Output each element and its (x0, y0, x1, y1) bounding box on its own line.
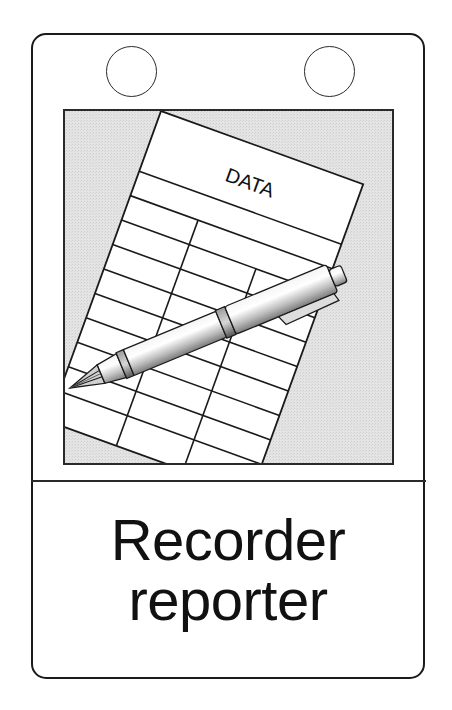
role-caption: Recorder reporter (33, 510, 423, 630)
caption-line-1: Recorder (33, 510, 423, 570)
caption-line-2: reporter (33, 570, 423, 630)
card-divider (31, 480, 426, 482)
